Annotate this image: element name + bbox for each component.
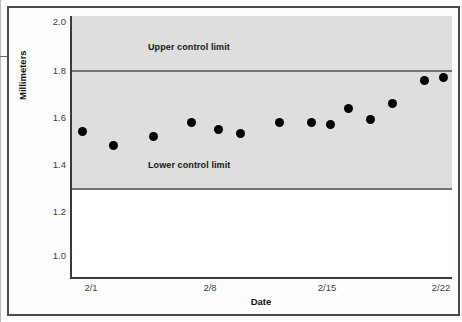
lower-control-limit-label: Lower control limit: [148, 160, 230, 170]
data-point: [187, 118, 196, 127]
y-tick-label: 1.8: [40, 66, 66, 76]
data-point: [236, 129, 245, 138]
x-axis-ticks: 2/1 2/8 2/15 2/22: [70, 282, 452, 296]
x-tick-label: 2/22: [432, 282, 451, 293]
lower-control-limit-line: [70, 188, 452, 190]
data-point: [109, 141, 118, 150]
plot-area: [70, 16, 452, 278]
upper-control-limit-line: [70, 70, 452, 72]
data-point: [214, 125, 223, 134]
x-axis-title: Date: [70, 296, 452, 307]
x-tick-label: 2/15: [318, 282, 337, 293]
y-tick-label: 2.0: [40, 17, 66, 27]
y-tick-label: 1.4: [40, 160, 66, 170]
y-tick-label: 1.6: [40, 113, 66, 123]
data-point: [78, 127, 87, 136]
y-tick-label: 1.0: [40, 251, 66, 261]
x-axis-line: [70, 277, 452, 279]
x-tick-label: 2/1: [84, 282, 97, 293]
page-left-rule: [0, 0, 1, 322]
data-point: [326, 120, 335, 129]
data-point: [344, 104, 353, 113]
upper-control-limit-label: Upper control limit: [148, 42, 230, 52]
y-axis-line: [70, 16, 72, 279]
data-point: [307, 118, 316, 127]
control-chart-figure: Millimeters 2.0 1.8 1.6 1.4 1.2 1.0 Uppe…: [0, 0, 462, 322]
y-axis-title: Millimeters: [17, 50, 28, 100]
y-axis-ticks: 2.0 1.8 1.6 1.4 1.2 1.0: [36, 16, 66, 278]
y-tick-label: 1.2: [40, 207, 66, 217]
x-tick-label: 2/8: [203, 282, 216, 293]
data-point: [149, 132, 158, 141]
data-point: [275, 118, 284, 127]
